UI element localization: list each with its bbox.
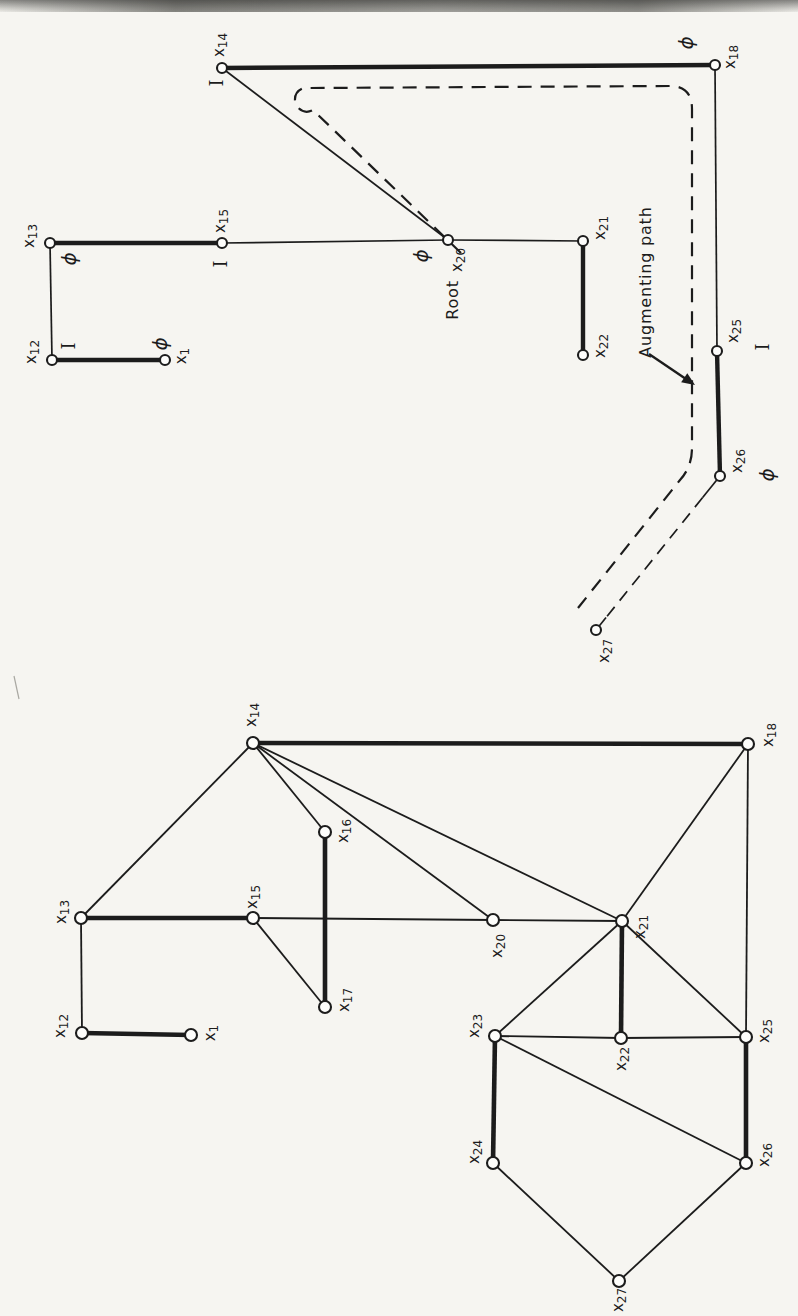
node-label-x21: x21 [591,216,611,240]
node-x17 [319,1001,331,1013]
matched-edge-x25-x26 [717,351,720,476]
node-x21 [578,236,588,246]
node-x23 [489,1030,501,1042]
augmenting-path-dashed-outline [295,86,692,608]
node-label-x14: x14 [210,33,230,57]
edge-x15-x17 [253,918,325,1007]
matched-edge-x23-x24 [493,1036,495,1163]
node-x24 [487,1157,499,1169]
node-label-x27: x27 [595,639,615,663]
node-x14 [217,63,227,73]
node-label-x1: x1 [172,348,192,365]
node-label-x24: x24 [465,1140,485,1164]
edge-x22-x25 [621,1037,746,1038]
vertex-tag-outer-x1: ϕ [148,337,172,350]
node-label-x13: x13 [52,900,72,924]
node-label-x18: x18 [721,45,741,69]
node-x1 [185,1029,197,1041]
edge-x20-x21 [493,920,622,921]
vertex-tag-outer-x13: ϕ [57,252,81,265]
vertex-tag-inner-x15: I [210,260,231,267]
edge-x13-x12 [81,918,82,1033]
node-label-x26: x26 [755,1143,775,1167]
node-label-x16: x16 [334,819,354,843]
augmenting-path-arrow-shaft [649,354,687,379]
node-x12 [47,355,57,365]
edge-x21-x23 [495,921,622,1036]
node-label-x20: x20 [488,934,508,958]
node-label-x22: x22 [591,334,611,358]
matched-edge-x12-x1 [82,1033,191,1035]
node-x22 [615,1032,627,1044]
vertex-tag-outer-x20: ϕ [409,249,433,262]
node-label-x26: x26 [728,449,748,473]
node-x27 [613,1275,625,1287]
augmenting-path-label: Augmenting path [636,206,655,357]
node-x18 [742,738,754,750]
node-x15 [217,238,227,248]
matched-edge-x21-x22 [621,921,622,1038]
node-label-x25: x25 [724,319,744,343]
edge-x15-x20 [253,918,493,920]
edge-x26-x27-dashed [606,498,702,618]
edge-x26-x27 [619,1163,746,1281]
edge-x20-x14 [222,68,448,240]
node-x14 [247,737,259,749]
node-label-x14: x14 [242,703,262,727]
node-label-x17: x17 [335,988,355,1012]
node-label-x12: x12 [51,1014,71,1038]
edge-x14-x20 [253,743,493,920]
node-x16 [319,826,331,838]
node-x20 [443,235,453,245]
figure-canvas: x14Ix18ϕx13ϕx15Ix20ϕx21x22x12Ix1ϕx25Ix26… [0,0,798,1316]
node-label-x23: x23 [465,1014,485,1038]
node-label-x12: x12 [22,340,42,364]
vertex-tag-inner-x12: I [58,342,79,349]
node-label-x27: x27 [609,1288,629,1312]
edge-x15-x20 [222,240,448,243]
node-x26 [740,1157,752,1169]
edge-x18-x21 [622,744,748,921]
node-x15 [247,912,259,924]
vertex-tag-outer-x26: ϕ [755,468,779,481]
node-x13 [75,912,87,924]
matched-edge-x14-x18 [253,743,748,744]
node-x20 [487,914,499,926]
node-x12 [76,1027,88,1039]
node-x26 [715,471,725,481]
node-x25 [740,1031,752,1043]
node-label-x15: x15 [211,209,231,233]
node-x18 [710,60,720,70]
node-label-x20: x20 [448,248,468,272]
node-label-x25: x25 [755,1019,775,1043]
scan-artifact-scratch [14,676,19,699]
edge-x13-x12 [50,243,52,360]
node-label-x18: x18 [759,723,779,747]
edge-x18-x25 [746,744,748,1037]
node-x21 [616,915,628,927]
node-label-x13: x13 [20,224,40,248]
matched-edge-x14-x18 [222,65,715,68]
node-label-x1: x1 [201,1025,221,1042]
node-x13 [45,238,55,248]
vertex-tag-outer-x18: ϕ [674,36,698,49]
alternating-tree-figure: x14Ix18ϕx13ϕx15Ix20ϕx21x22x12Ix1ϕx25Ix26… [20,33,779,663]
vertex-tag-inner-x14: I [206,79,227,86]
node-label-x22: x22 [612,1047,632,1071]
node-x25 [712,346,722,356]
vertex-tag-inner-x25: I [752,343,773,350]
node-label-x21: x21 [631,915,651,939]
edge-x18-x25 [715,65,717,351]
edge-x14-x21 [253,743,622,921]
node-x22 [578,350,588,360]
edge-x24-x27 [493,1163,619,1281]
edge-x22-x23 [495,1036,621,1038]
augmenting-path-arrowhead [681,373,695,385]
edge-x20-x21 [448,240,583,241]
node-x1 [160,355,170,365]
node-label-x15: x15 [243,885,263,909]
edge-x13-x14 [81,743,253,918]
node-x27 [591,625,601,635]
matching-graph-figure: x14x18x16x13x15x20x21x17x12x1x23x22x25x2… [51,703,779,1312]
root-label: Root [443,280,462,319]
